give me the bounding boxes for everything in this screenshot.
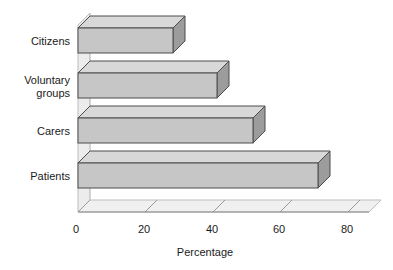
category-label-patients: Patients (30, 170, 70, 182)
chart-floor (78, 200, 381, 212)
bar-chart: Citizens Voluntary groups Carers Patient… (0, 0, 393, 270)
bar-patients-top (78, 151, 330, 163)
bar-carers-top (78, 106, 265, 118)
x-tick-label-0: 0 (73, 223, 79, 235)
bar-citizens (78, 16, 185, 53)
x-axis-title: Percentage (177, 246, 233, 258)
bar-patients (78, 151, 330, 188)
x-tick-label-80: 80 (341, 223, 353, 235)
bar-carers (78, 106, 265, 143)
x-tick-label-40: 40 (206, 223, 218, 235)
bar-voluntary-groups (78, 61, 229, 98)
bar-voluntary-groups-top (78, 61, 229, 73)
bar-voluntary-groups-front (78, 73, 217, 98)
bar-citizens-front (78, 28, 173, 53)
category-label-voluntary-groups-line1: Voluntary (24, 74, 70, 86)
chart-canvas: Citizens Voluntary groups Carers Patient… (0, 0, 393, 270)
x-tick-label-60: 60 (273, 223, 285, 235)
category-label-citizens: Citizens (31, 35, 71, 47)
x-tick-label-20: 20 (138, 223, 150, 235)
category-label-carers: Carers (37, 125, 71, 137)
bar-carers-front (78, 118, 253, 143)
category-label-voluntary-groups-line2: groups (36, 87, 70, 99)
bar-patients-front (78, 163, 318, 188)
bar-citizens-top (78, 16, 185, 28)
